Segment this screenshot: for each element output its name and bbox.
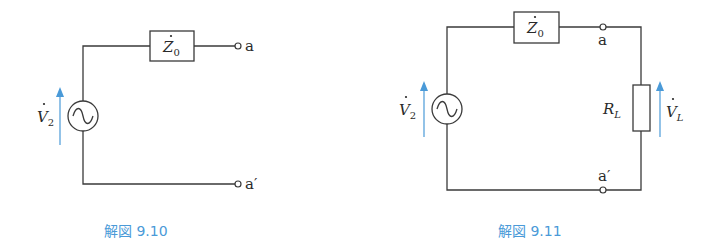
terminal-a	[600, 24, 606, 30]
wire-a-to-load	[606, 27, 641, 85]
arrow-up-icon	[656, 81, 664, 91]
phasor-dot	[405, 96, 407, 98]
wire-bottom	[447, 124, 600, 190]
figure-9-10-circuit: Z0 a a′ V2	[37, 31, 258, 193]
load-resistor-label: RL	[602, 100, 621, 120]
wire-load-to-a-prime	[606, 131, 641, 190]
terminal-a-prime-label: a′	[245, 175, 258, 193]
load-resistor-box	[633, 85, 650, 131]
phasor-dot	[672, 98, 674, 100]
figure-caption-9-11: 解図 9.11	[498, 220, 562, 240]
figure-caption-9-10: 解図 9.10	[104, 220, 168, 240]
circuit-diagrams: Z0 a a′ V2 Z0 RL	[0, 0, 701, 247]
phasor-dot	[534, 16, 536, 18]
wire-top-left	[83, 46, 150, 101]
terminal-a	[235, 43, 241, 49]
load-voltage-label: VL	[666, 103, 684, 123]
wire-top-left	[447, 27, 514, 94]
source-voltage-label: V2	[399, 101, 416, 121]
figure-9-11-circuit: Z0 RL a a′ V2 VL	[399, 12, 684, 193]
terminal-a-prime	[600, 187, 606, 193]
wire-bottom	[83, 131, 235, 184]
terminal-a-label: a	[598, 31, 607, 49]
sine-wave-icon	[73, 109, 93, 124]
arrow-up-icon	[420, 81, 428, 91]
phasor-dot	[170, 35, 172, 37]
source-voltage-label: V2	[37, 108, 54, 128]
terminal-a-prime-label: a′	[598, 167, 611, 185]
arrow-up-icon	[56, 87, 64, 97]
sine-wave-icon	[437, 102, 457, 117]
terminal-a-label: a	[245, 37, 254, 55]
phasor-dot	[43, 103, 45, 105]
terminal-a-prime	[235, 181, 241, 187]
